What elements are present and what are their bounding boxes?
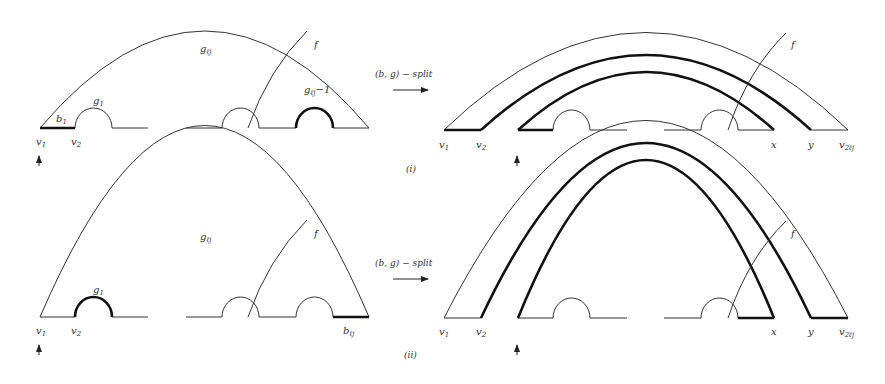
label-y: y: [807, 139, 814, 150]
label-v2: v2: [476, 139, 487, 152]
panel-ii-before-diagram: gℓj f g1 bℓj v1 v2: [36, 126, 369, 356]
label-v1: v1: [439, 326, 449, 339]
panel-ii-split-arrow: (b, g) − split: [375, 258, 433, 279]
label-b1: b1: [56, 113, 67, 126]
bump-2: [701, 110, 738, 130]
split-arrow-label: (b, g) − split: [375, 258, 433, 268]
panel-ii-after-diagram: f v1 v2 x y v2ℓj (ii): [404, 121, 855, 361]
panel-i: gℓj f g1 gℓj−1 b1 v1 v2 (b, g) − split: [36, 31, 855, 174]
bump-g1: [75, 108, 112, 128]
cut-curve-f: [248, 31, 307, 128]
bump-middle: [222, 108, 259, 128]
cut-curve-f: [248, 220, 307, 317]
label-v2: v2: [71, 325, 82, 338]
label-v1: v1: [36, 136, 46, 149]
label-f: f: [313, 39, 320, 50]
label-f: f: [790, 39, 797, 50]
inner-arc: [518, 160, 774, 318]
outer-arc-g-lj: [40, 126, 369, 318]
label-b-lj: bℓj: [343, 325, 355, 338]
label-y: y: [807, 326, 814, 337]
bump-1: [553, 298, 590, 318]
outer-arc: [444, 121, 848, 319]
label-x: x: [771, 326, 777, 337]
label-x: x: [771, 139, 777, 150]
panel-i-split-arrow: (b, g) − split: [375, 69, 433, 90]
label-g-lj: gℓj: [200, 43, 212, 56]
label-g-lj-minus-1: gℓj−1: [304, 84, 330, 97]
bump-middle: [222, 297, 259, 317]
label-g-lj: gℓj: [200, 231, 212, 244]
cut-curve-f: [728, 221, 786, 318]
split-diagram-figure: gℓj f g1 gℓj−1 b1 v1 v2 (b, g) − split: [0, 0, 885, 384]
label-v1: v1: [439, 139, 449, 152]
bump-1: [553, 110, 590, 130]
panel-i-before-diagram: gℓj f g1 gℓj−1 b1 v1 v2: [36, 31, 369, 166]
outer-arc: [444, 33, 848, 131]
inner-arc: [518, 72, 774, 130]
label-g1: g1: [93, 95, 104, 108]
label-v-2lj: v2ℓj: [839, 326, 855, 339]
split-arrow-label: (b, g) − split: [375, 69, 433, 79]
label-v1: v1: [36, 325, 46, 338]
bump-last: [296, 297, 333, 317]
bump-g1: [75, 297, 112, 317]
bump-g-lj-minus-1: [296, 108, 333, 128]
label-v2: v2: [71, 136, 82, 149]
label-f: f: [313, 228, 320, 239]
label-g1: g1: [93, 284, 104, 297]
panel-caption-i: (i): [406, 164, 416, 174]
bump-2: [701, 298, 738, 318]
label-v-2lj: v2ℓj: [839, 139, 855, 152]
label-v2: v2: [476, 326, 487, 339]
panel-caption-ii: (ii): [404, 350, 417, 360]
panel-i-after-diagram: f v1 v2 x y v2ℓj (i): [406, 33, 855, 175]
panel-ii: gℓj f g1 bℓj v1 v2 (b, g) − split: [36, 121, 855, 361]
